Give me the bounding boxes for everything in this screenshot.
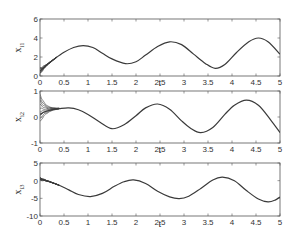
series-line bbox=[40, 100, 280, 133]
x-tick-label: 1 bbox=[86, 145, 91, 154]
y-tick-label: -5 bbox=[31, 194, 39, 203]
y-tick-label: -1 bbox=[31, 139, 39, 148]
x-tick-label: 3 bbox=[182, 145, 187, 154]
x-axis-label: t bbox=[159, 144, 162, 155]
x-tick-label: 4 bbox=[230, 145, 235, 154]
x-tick-label: 3.5 bbox=[202, 218, 214, 227]
y-tick-label: 1 bbox=[34, 87, 39, 96]
figure: 00.511.522.533.544.550246xi1t 00.511.522… bbox=[0, 0, 298, 240]
x-tick-label: 2 bbox=[134, 145, 139, 154]
y-tick-label: 0 bbox=[34, 113, 39, 122]
series-line bbox=[40, 177, 280, 202]
panel-x-i3: 00.511.522.533.544.55-10-505xi3t bbox=[12, 159, 283, 229]
x-tick-label: 3 bbox=[182, 78, 187, 87]
x-tick-label: 3.5 bbox=[202, 145, 214, 154]
x-tick-label: 5 bbox=[278, 218, 283, 227]
x-tick-label: 4 bbox=[230, 218, 235, 227]
x-tick-label: 0.5 bbox=[58, 145, 70, 154]
panel-x-i2: 00.511.522.533.544.55-101xi2t bbox=[12, 87, 283, 155]
x-axis-label: t bbox=[159, 77, 162, 88]
x-tick-label: 4.5 bbox=[250, 145, 262, 154]
y-tick-label: 5 bbox=[34, 159, 39, 168]
x-tick-label: 4.5 bbox=[250, 218, 262, 227]
y-tick-label: 0 bbox=[34, 177, 39, 186]
x-tick-label: 5 bbox=[278, 78, 283, 87]
x-tick-label: 4 bbox=[230, 78, 235, 87]
axes-frame bbox=[40, 163, 280, 216]
x-tick-label: 4.5 bbox=[250, 78, 262, 87]
data-lines bbox=[40, 38, 280, 73]
axes-frame bbox=[40, 91, 280, 143]
x-tick-label: 1.5 bbox=[106, 78, 118, 87]
x-tick-label: 0 bbox=[38, 78, 43, 87]
x-tick-label: 2 bbox=[134, 218, 139, 227]
data-lines bbox=[40, 177, 280, 202]
x-tick-label: 1.5 bbox=[106, 145, 118, 154]
y-tick-label: 6 bbox=[34, 15, 39, 24]
y-axis-label: xi2 bbox=[12, 112, 25, 122]
x-tick-label: 0.5 bbox=[58, 218, 70, 227]
y-tick-label: 2 bbox=[34, 53, 39, 62]
panel-x-i1: 00.511.522.533.544.550246xi1t bbox=[12, 15, 283, 88]
x-tick-label: 1 bbox=[86, 78, 91, 87]
y-axis-label: xi3 bbox=[12, 184, 25, 194]
series-line bbox=[40, 38, 280, 71]
x-tick-label: 3 bbox=[182, 218, 187, 227]
x-tick-label: 0 bbox=[38, 218, 43, 227]
data-lines bbox=[40, 94, 280, 133]
transient-trajectory bbox=[40, 94, 59, 108]
y-tick-label: 0 bbox=[34, 72, 39, 81]
y-axis-label: xi1 bbox=[12, 42, 25, 52]
axes-frame bbox=[40, 19, 280, 76]
x-axis-label: t bbox=[159, 218, 162, 229]
x-tick-label: 3.5 bbox=[202, 78, 214, 87]
y-tick-label: 4 bbox=[34, 34, 39, 43]
y-tick-label: -10 bbox=[26, 212, 38, 221]
x-tick-label: 5 bbox=[278, 145, 283, 154]
x-tick-label: 0 bbox=[38, 145, 43, 154]
x-tick-label: 0.5 bbox=[58, 78, 70, 87]
x-tick-label: 1.5 bbox=[106, 218, 118, 227]
x-tick-label: 2 bbox=[134, 78, 139, 87]
x-tick-label: 1 bbox=[86, 218, 91, 227]
